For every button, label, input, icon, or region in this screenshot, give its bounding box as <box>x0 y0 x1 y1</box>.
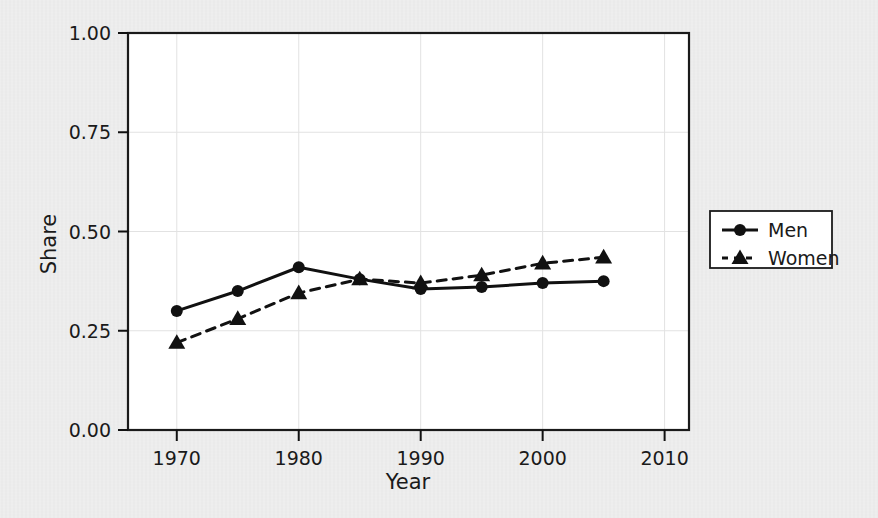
y-tick-label: 1.00 <box>69 22 111 44</box>
data-point-men <box>232 285 244 297</box>
y-tick-label: 0.50 <box>69 221 111 243</box>
y-tick-label: 0.00 <box>69 419 111 441</box>
x-axis-ticks <box>177 430 665 441</box>
chart-figure: 0.000.250.500.751.00 1970198019902000201… <box>0 0 878 518</box>
data-point-men <box>171 305 183 317</box>
data-point-men <box>537 277 549 289</box>
x-tick-label: 1970 <box>153 447 201 469</box>
data-point-men <box>476 281 488 293</box>
x-tick-label: 2000 <box>518 447 566 469</box>
x-tick-label: 2010 <box>640 447 688 469</box>
x-axis-tick-labels: 19701980199020002010 <box>153 447 689 469</box>
legend-label-men: Men <box>768 219 808 241</box>
data-point-men <box>598 275 610 287</box>
x-tick-label: 1980 <box>275 447 323 469</box>
y-axis-ticks <box>118 33 128 430</box>
x-tick-label: 1990 <box>397 447 445 469</box>
x-axis-title: Year <box>385 470 431 494</box>
y-axis-title: Share <box>37 214 61 275</box>
data-point-men <box>293 261 305 273</box>
y-tick-label: 0.75 <box>69 121 111 143</box>
chart-svg: 0.000.250.500.751.00 1970198019902000201… <box>0 0 878 518</box>
y-tick-label: 0.25 <box>69 320 111 342</box>
legend-marker-men <box>734 224 746 236</box>
chart-legend[interactable]: MenWomen <box>710 211 840 269</box>
y-axis-tick-labels: 0.000.250.500.751.00 <box>69 22 111 441</box>
legend-label-women: Women <box>768 247 840 269</box>
